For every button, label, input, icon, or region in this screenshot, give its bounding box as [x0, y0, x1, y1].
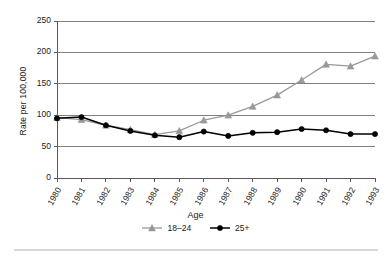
- legend-title: Age: [0, 210, 391, 220]
- chart-figure: Rate per 100,000 250200150100500 1980198…: [0, 0, 391, 261]
- axis-lines: [57, 21, 375, 178]
- triangle-marker-icon: [141, 223, 163, 233]
- series-18-24: [54, 53, 379, 138]
- x-axis-ticks: [57, 178, 375, 182]
- legend-entry-label: 18–24: [167, 223, 191, 233]
- circle-marker-icon: [209, 223, 231, 233]
- bottom-divider: [14, 249, 378, 251]
- legend-entry[interactable]: 25+: [209, 223, 249, 233]
- legend-entry-label: 25+: [235, 223, 249, 233]
- legend-entry[interactable]: 18–24: [141, 223, 191, 233]
- legend-entry-list: 18–2425+: [0, 223, 391, 233]
- chart-legend: Age 18–2425+: [0, 210, 391, 233]
